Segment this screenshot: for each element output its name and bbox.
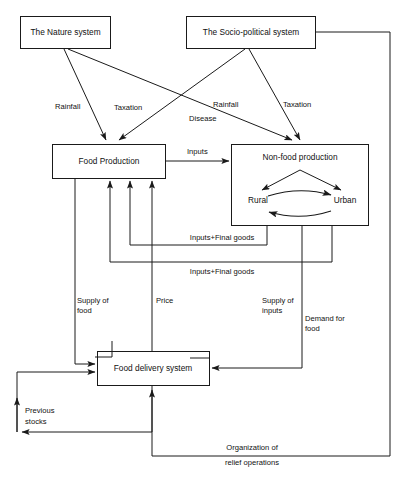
node-label-socio-political-system: The Socio-political system <box>203 27 299 37</box>
edge-label-taxation-right: Taxation <box>283 100 311 109</box>
edge-supply-of-food <box>75 179 95 364</box>
edge-label-previous-stocks-line1: Previous <box>25 406 55 415</box>
node-label-food-production: Food Production <box>79 156 140 166</box>
edge-label-inputs-final-goods-upper: Inputs+Final goods <box>190 233 255 242</box>
edge-label-previous-stocks-line2: stocks <box>25 417 47 426</box>
famine-system-diagram: The Nature system The Socio-political sy… <box>0 0 405 482</box>
node-label-urban: Urban <box>334 195 357 205</box>
node-label-nature-system: The Nature system <box>30 27 100 37</box>
edge-label-organization-line2: relief operations <box>225 458 279 467</box>
edge-label-supply-of-food-line1: Supply of <box>77 296 110 305</box>
edge-label-demand-for-food-line2: food <box>305 324 320 333</box>
edge-label-inputs: Inputs <box>187 147 208 156</box>
edge-label-price: Price <box>156 296 173 305</box>
edge-label-supply-of-food-line2: food <box>77 306 92 315</box>
edge-socio-to-non-food-production <box>249 49 300 140</box>
edge-label-supply-of-inputs-line2: inputs <box>262 306 282 315</box>
edge-label-disease: Disease <box>189 114 216 123</box>
edge-label-rainfall-right: Rainfall <box>213 100 239 109</box>
edge-label-taxation-left: Taxation <box>114 103 142 112</box>
edge-socio-to-food-production <box>119 49 245 140</box>
diagram-canvas: The Nature system The Socio-political sy… <box>0 0 405 482</box>
edge-label-inputs-final-goods-lower: Inputs+Final goods <box>190 267 255 276</box>
edge-label-demand-for-food-line1: Demand for <box>305 314 345 323</box>
edge-label-rainfall-left: Rainfall <box>55 102 81 111</box>
edge-label-organization-line1: Organization of <box>226 443 278 452</box>
edge-socio-to-relief-operations <box>152 32 390 456</box>
edge-label-supply-of-inputs-line1: Supply of <box>262 296 295 305</box>
edge-nature-to-non-food-production <box>68 49 292 140</box>
edge-nature-to-food-production <box>64 49 106 140</box>
node-label-non-food-production: Non-food production <box>262 152 338 162</box>
node-label-food-delivery-system: Food delivery system <box>114 363 192 373</box>
node-label-rural: Rural <box>248 195 268 205</box>
